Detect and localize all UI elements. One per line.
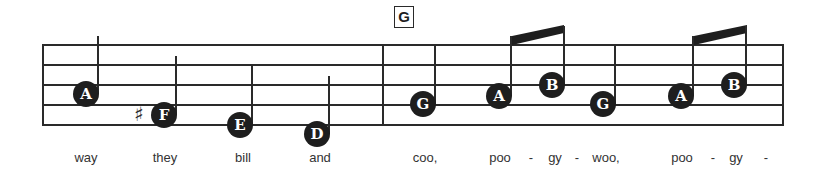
beam-1: [512, 25, 564, 45]
lyric-hyphen: -: [575, 150, 579, 165]
note-stem: [510, 36, 512, 96]
lyric-syllable: gy: [548, 150, 562, 165]
note-stem: [97, 36, 99, 94]
beams: [0, 0, 823, 182]
lyric-hyphen: -: [711, 150, 715, 165]
note-stem: [563, 26, 565, 85]
music-staff: G A♯FEDGABGAB waytheybillandcoo,poo-gy-w…: [0, 0, 823, 182]
note-head-a: A: [73, 81, 99, 107]
note-stem: [614, 46, 616, 104]
note-head-f: F: [151, 102, 177, 128]
lyric-hyphen: -: [529, 150, 533, 165]
note-head-a: A: [668, 83, 694, 109]
note-head-e: E: [227, 112, 253, 138]
lyric-syllable: bill: [235, 150, 251, 165]
note-stem: [434, 46, 436, 104]
note-stem: [692, 36, 694, 96]
lyric-syllable: coo,: [413, 150, 438, 165]
beam-2: [694, 25, 747, 45]
note-stem: [251, 66, 253, 125]
note-head-d: D: [304, 121, 330, 147]
lyric-syllable: gy: [729, 150, 743, 165]
note-stem: [175, 56, 177, 115]
lyric-syllable: way: [74, 150, 97, 165]
sharp-icon: ♯: [134, 104, 144, 124]
note-stem: [745, 26, 747, 85]
note-head-g: G: [410, 91, 436, 117]
note-head-g: G: [590, 91, 616, 117]
note-stem: [328, 76, 330, 134]
lyric-syllable: woo,: [592, 150, 619, 165]
lyric-syllable: and: [309, 150, 331, 165]
note-head-b: B: [721, 72, 747, 98]
note-head-b: B: [539, 72, 565, 98]
lyric-syllable: poo: [671, 150, 693, 165]
lyric-hyphen: -: [764, 150, 768, 165]
note-head-a: A: [486, 83, 512, 109]
lyric-syllable: they: [153, 150, 178, 165]
lyric-syllable: poo: [489, 150, 511, 165]
